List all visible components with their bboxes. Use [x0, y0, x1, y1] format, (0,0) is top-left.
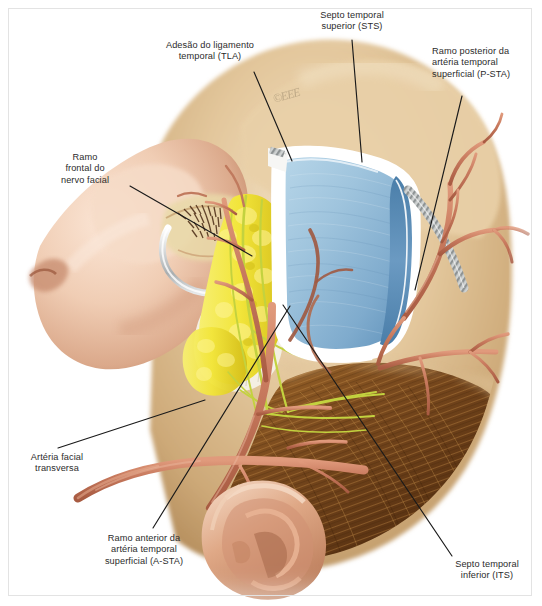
label-tla: Adesão do ligamento temporal (TLA) — [148, 40, 272, 63]
label-psta: Ramo posterior da artéria temporal super… — [432, 46, 536, 80]
temporal-fascia-flap — [268, 146, 421, 363]
label-its: Septo temporal inferior (ITS) — [438, 559, 536, 582]
anatomy-illustration — [0, 0, 542, 606]
anatomy-figure: ©EEE Adesão do ligamento temporal (TLA)S… — [0, 0, 542, 606]
label-transverse-facial-artery: Artéria facial transversa — [14, 452, 100, 475]
label-sts: Septo temporal superior (STS) — [300, 10, 404, 33]
label-asta: Ramo anterior da artéria temporal superf… — [88, 533, 200, 567]
label-frontal-branch: Ramo frontal do nervo facial — [42, 152, 128, 186]
